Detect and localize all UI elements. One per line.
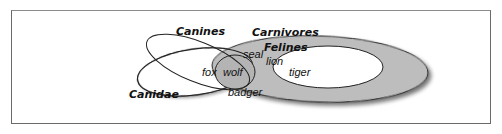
venn-diagram: Canines Canidae Carnivores Felines fox w… bbox=[0, 0, 502, 134]
member-tiger: tiger bbox=[289, 66, 312, 78]
member-seal: seal bbox=[243, 48, 264, 60]
label-carnivores: Carnivores bbox=[252, 26, 319, 39]
member-wolf: wolf bbox=[223, 66, 244, 78]
member-badger: badger bbox=[228, 86, 264, 98]
label-canidae: Canidae bbox=[129, 88, 179, 101]
label-canines: Canines bbox=[176, 25, 225, 38]
label-felines: Felines bbox=[264, 41, 308, 54]
member-lion: lion bbox=[266, 55, 283, 67]
member-fox: fox bbox=[202, 66, 217, 78]
